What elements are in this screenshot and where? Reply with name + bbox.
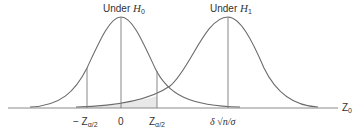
neg-critical-label: − Zα/2 bbox=[73, 117, 98, 128]
under-h1-label: Under H1 bbox=[210, 3, 252, 15]
diagram-canvas bbox=[0, 0, 364, 132]
h1-curve bbox=[76, 17, 318, 107]
zero-label: 0 bbox=[118, 117, 124, 127]
axis-label: Z0 bbox=[342, 103, 352, 114]
pos-critical-label: Zα/2 bbox=[149, 117, 165, 128]
shift-label: δ √n/σ bbox=[210, 117, 235, 127]
under-h0-label: Under H0 bbox=[103, 3, 145, 15]
